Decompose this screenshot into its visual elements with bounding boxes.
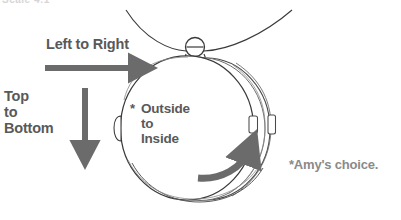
- bail-ring: [186, 38, 205, 57]
- locket-illustration: [0, 0, 401, 220]
- clasp-tab-middle: [249, 116, 258, 133]
- clasp-tab-right: [268, 115, 276, 134]
- label-amys-choice-footnote: *Amy's choice.: [289, 158, 378, 173]
- label-outside-to-inside: *OutsidetoInside: [141, 101, 190, 146]
- label-outside-to-inside-line2: to: [141, 116, 153, 131]
- label-top-to-bottom-line2: to: [4, 104, 17, 120]
- label-top-to-bottom-line1: Top: [4, 88, 29, 104]
- label-outside-to-inside-line3: Inside: [141, 131, 179, 146]
- label-left-to-right: Left to Right: [46, 36, 129, 52]
- hinge-tab-left: [114, 116, 121, 141]
- label-outside-to-inside-line1: Outside: [141, 101, 190, 116]
- footnote-asterisk-marker: *: [130, 102, 135, 117]
- label-top-to-bottom: ToptoBottom: [4, 88, 54, 137]
- label-top-to-bottom-line3: Bottom: [4, 120, 54, 136]
- diagram-canvas: Scale 4:1: [0, 0, 401, 220]
- necklace-chain: [126, 10, 292, 51]
